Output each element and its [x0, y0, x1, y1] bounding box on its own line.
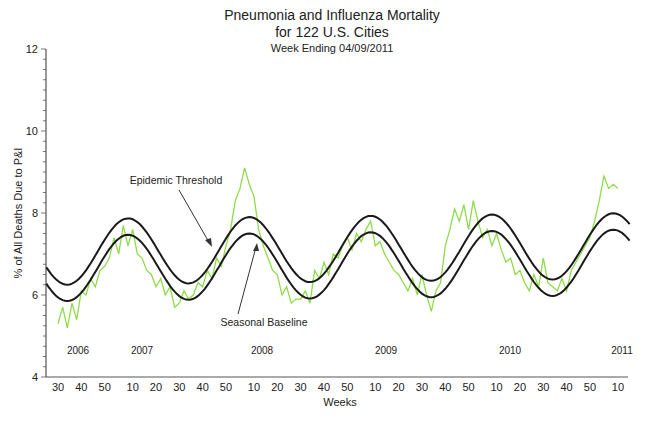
x-tick-label: 50	[341, 381, 353, 393]
x-tick-label: 30	[52, 381, 64, 393]
x-tick-label: 30	[537, 381, 549, 393]
x-tick-label: 40	[560, 381, 572, 393]
x-tick-label: 10	[490, 381, 502, 393]
y-tick-label: 12	[26, 43, 38, 55]
year-label: 2010	[499, 345, 522, 356]
year-label: 2011	[611, 345, 633, 356]
x-tick-label: 50	[99, 381, 111, 393]
chart-subtitle: Week Ending 04/09/2011	[271, 42, 394, 54]
arrow-head-icon	[253, 243, 259, 251]
y-axis: 4681012	[26, 43, 46, 383]
x-tick-label: 20	[392, 381, 404, 393]
x-tick-label: 30	[173, 381, 185, 393]
chart-title: Pneumonia and Influenza Mortality	[224, 7, 440, 23]
year-labels: 200620072008200920102011	[67, 345, 633, 356]
x-tick-label: 40	[75, 381, 87, 393]
epidemic-threshold-arrow	[179, 190, 210, 244]
x-tick-label: 20	[514, 381, 526, 393]
x-tick-label: 40	[197, 381, 209, 393]
x-tick-label: 50	[584, 381, 596, 393]
x-axis-label: Weeks	[323, 396, 357, 408]
x-tick-label: 40	[439, 381, 451, 393]
x-tick-label: 20	[271, 381, 283, 393]
year-label: 2006	[67, 345, 90, 356]
x-tick-label: 10	[612, 381, 624, 393]
seasonal-baseline-annotation: Seasonal Baseline	[221, 316, 308, 328]
x-tick-label: 30	[295, 381, 307, 393]
epidemic-threshold-line	[46, 213, 629, 284]
chart-title-line2: for 122 U.S. Cities	[275, 24, 389, 40]
x-axis: 3040501020304050102030405010203040501020…	[46, 377, 628, 393]
x-tick-label: 40	[318, 381, 330, 393]
x-tick-label: 10	[369, 381, 381, 393]
seasonal-baseline-arrow	[238, 247, 256, 314]
x-tick-label: 50	[462, 381, 474, 393]
epidemic-threshold-annotation: Epidemic Threshold	[130, 174, 223, 186]
x-tick-label: 30	[416, 381, 428, 393]
chart: Pneumonia and Influenza Mortality for 12…	[0, 0, 653, 427]
x-tick-label: 50	[220, 381, 232, 393]
year-label: 2007	[131, 345, 154, 356]
y-tick-label: 10	[26, 125, 38, 137]
x-tick-label: 10	[248, 381, 260, 393]
year-label: 2009	[375, 345, 398, 356]
y-tick-label: 8	[32, 207, 38, 219]
arrow-head-icon	[205, 238, 212, 247]
x-tick-label: 10	[127, 381, 139, 393]
observed-series-line	[58, 168, 618, 328]
year-label: 2008	[251, 345, 274, 356]
y-tick-label: 6	[32, 289, 38, 301]
y-tick-label: 4	[32, 371, 38, 383]
x-tick-label: 20	[150, 381, 162, 393]
y-axis-label: % of All Deaths Due to P&I	[12, 148, 24, 279]
